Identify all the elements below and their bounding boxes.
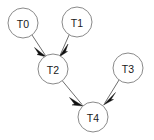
edge-t1-to-t2: [59, 34, 70, 57]
edge-t0-to-t2: [32, 35, 47, 57]
edge-t2-to-t4: [63, 81, 84, 106]
node-t1[interactable]: T1: [62, 7, 92, 37]
arrowhead-t3-t4: [104, 93, 116, 106]
edge-t3-to-t4: [104, 80, 120, 105]
arrowhead-t1-t2: [59, 44, 68, 57]
node-t0[interactable]: T0: [8, 8, 38, 38]
node-label-t4: T4: [87, 112, 100, 124]
node-label-t1: T1: [71, 17, 84, 29]
node-t3[interactable]: T3: [113, 53, 143, 83]
arrowhead-t2-t4: [70, 98, 84, 107]
node-label-t3: T3: [122, 63, 135, 75]
node-t2[interactable]: T2: [38, 54, 68, 84]
task-dependency-graph: T0 T1 T2 T3 T4: [0, 0, 154, 140]
arrowhead-t0-t2: [35, 48, 47, 58]
graph-svg-canvas: T0 T1 T2 T3 T4: [0, 0, 154, 140]
node-label-t2: T2: [47, 64, 60, 76]
node-t4[interactable]: T4: [78, 102, 108, 132]
node-label-t0: T0: [17, 18, 30, 30]
graph-nodes: T0 T1 T2 T3 T4: [8, 7, 143, 132]
